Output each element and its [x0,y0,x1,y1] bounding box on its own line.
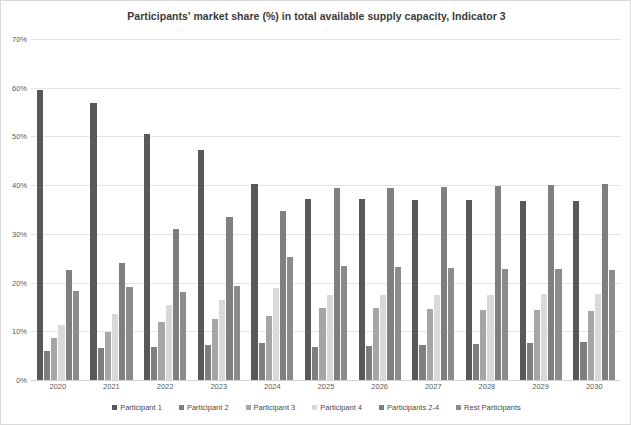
bar[interactable] [112,314,118,380]
bar[interactable] [37,90,43,380]
bar[interactable] [212,319,218,380]
bar[interactable] [327,295,333,380]
bar[interactable] [573,201,579,380]
bar[interactable] [373,308,379,380]
x-axis: 2020202120222023202420252026202720282029… [31,382,621,391]
bar[interactable] [305,199,311,380]
bar[interactable] [312,347,318,380]
x-axis-tick-label: 2027 [406,382,460,391]
bar[interactable] [588,311,594,380]
bar[interactable] [319,308,325,380]
bar[interactable] [412,200,418,380]
year-group [85,39,139,380]
year-group [353,39,407,380]
bar[interactable] [609,270,615,380]
bar[interactable] [98,348,104,380]
bar[interactable] [151,347,157,380]
bar[interactable] [359,199,365,380]
legend-item[interactable]: Participant 3 [246,403,296,412]
bar[interactable] [380,295,386,380]
bar[interactable] [555,269,561,380]
y-axis-tick-label: 70% [1,35,27,44]
bar[interactable] [180,292,186,380]
bar[interactable] [266,316,272,380]
year-group [246,39,300,380]
bar[interactable] [395,267,401,380]
bar[interactable] [502,269,508,380]
bar[interactable] [495,186,501,380]
bar[interactable] [487,295,493,380]
bar[interactable] [548,185,554,380]
bar[interactable] [58,325,64,380]
bar[interactable] [441,187,447,380]
chart-legend: Participant 1Participant 2Participant 3P… [1,403,631,412]
bar[interactable] [51,338,57,380]
legend-label: Participant 4 [320,403,362,412]
legend-swatch-icon [379,405,384,410]
year-group [567,39,621,380]
bar[interactable] [580,342,586,380]
bar[interactable] [205,345,211,380]
bar-groups [31,39,621,380]
bar[interactable] [234,286,240,380]
bar[interactable] [280,211,286,380]
legend-label: Participant 1 [120,403,162,412]
y-axis-tick-label: 20% [1,278,27,287]
legend-label: Participant 3 [254,403,296,412]
legend-item[interactable]: Participant 1 [112,403,162,412]
x-axis-tick-label: 2029 [514,382,568,391]
bar[interactable] [473,344,479,380]
year-group [192,39,246,380]
bar[interactable] [251,184,257,380]
bar[interactable] [520,201,526,380]
bar[interactable] [259,343,265,380]
bar[interactable] [219,300,225,380]
bar[interactable] [158,322,164,380]
bar[interactable] [334,188,340,380]
year-group [138,39,192,380]
y-axis-tick-label: 10% [1,327,27,336]
bar[interactable] [341,266,347,380]
x-axis-tick-label: 2022 [138,382,192,391]
year-group [460,39,514,380]
bar[interactable] [273,288,279,380]
bar[interactable] [366,346,372,380]
bar[interactable] [595,294,601,380]
bar[interactable] [173,229,179,381]
bar[interactable] [434,295,440,380]
y-axis-tick-label: 40% [1,181,27,190]
bar[interactable] [198,150,204,380]
bar[interactable] [541,294,547,380]
legend-swatch-icon [312,405,317,410]
chart-container: Participants' market share (%) in total … [0,0,631,425]
bar[interactable] [44,351,50,380]
bar[interactable] [90,103,96,380]
bar[interactable] [534,310,540,380]
x-axis-tick-label: 2028 [460,382,514,391]
x-axis-tick-label: 2021 [85,382,139,391]
y-axis-tick-label: 50% [1,132,27,141]
bar[interactable] [387,188,393,380]
x-axis-tick-label: 2020 [31,382,85,391]
bar[interactable] [226,217,232,380]
bar[interactable] [126,287,132,380]
bar[interactable] [602,184,608,380]
bar[interactable] [66,270,72,380]
year-group [514,39,568,380]
bar[interactable] [105,332,111,380]
bar[interactable] [480,310,486,380]
legend-item[interactable]: Participant 2 [179,403,229,412]
bar[interactable] [419,345,425,380]
bar[interactable] [73,291,79,380]
legend-item[interactable]: Participants 2-4 [379,403,439,412]
bar[interactable] [527,343,533,380]
bar[interactable] [166,305,172,380]
legend-item[interactable]: Participant 4 [312,403,362,412]
bar[interactable] [448,268,454,380]
bar[interactable] [427,309,433,380]
legend-item[interactable]: Rest Participants [456,403,521,412]
bar[interactable] [287,257,293,380]
bar[interactable] [119,263,125,380]
bar[interactable] [466,200,472,380]
bar[interactable] [144,134,150,380]
